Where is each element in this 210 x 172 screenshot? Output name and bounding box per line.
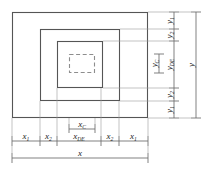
- hdim-label-x1-right: x1: [129, 131, 137, 142]
- horizontal-segment-labels: x1 x2 xDE x2 x1: [22, 131, 138, 142]
- figure-container: x1 x2 xDE x2 x1 xC: [0, 0, 210, 172]
- vertical-segment-labels: y1 y2 yDE y2 y1: [164, 17, 175, 114]
- vdim-label-y1-top: y1: [164, 17, 175, 25]
- vertical-dimension-chain: [103, 12, 179, 118]
- outer-rectangle: [13, 13, 148, 118]
- hdim-label-xde: xDE: [72, 131, 85, 142]
- hdim-label-xc: xC: [77, 119, 86, 130]
- vdim-label-y2-top: y2: [164, 31, 175, 39]
- vdim-label-yc: yC: [149, 59, 160, 68]
- core-dashed-rectangle: [70, 55, 95, 73]
- vdim-label-yde: yDE: [164, 58, 175, 71]
- hdim-label-x1-left: x1: [22, 131, 30, 142]
- middle-rectangle: [41, 30, 120, 101]
- hdim-label-x-overall: x: [77, 148, 82, 158]
- hdim-label-x2-left: x2: [44, 131, 52, 142]
- inner-rectangle: [58, 42, 103, 88]
- nested-rectangles: [13, 13, 148, 118]
- vdim-label-y2-bottom: y2: [164, 91, 175, 99]
- dimension-diagram: x1 x2 xDE x2 x1 xC: [0, 0, 210, 172]
- vdim-label-y-overall: y: [186, 63, 196, 68]
- hdim-label-x2-right: x2: [106, 131, 114, 142]
- vdim-label-y1-bottom: y1: [164, 106, 175, 114]
